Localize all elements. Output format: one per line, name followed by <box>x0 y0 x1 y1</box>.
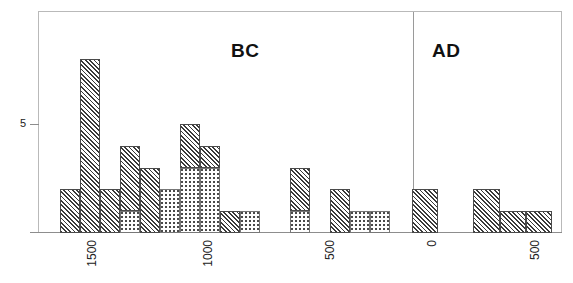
bar-segment-hatched <box>220 211 240 233</box>
histogram-bar <box>370 211 390 233</box>
histogram-bar <box>500 211 526 233</box>
bar-segment-dotted <box>290 211 310 233</box>
histogram-bar <box>100 189 120 233</box>
bar-segment-hatched <box>330 189 350 233</box>
bar-segment-dotted <box>180 168 200 233</box>
chart-root: 5 BC AD 150010005000500 <box>0 0 573 283</box>
histogram-bar <box>412 189 438 233</box>
bar-segment-dotted <box>350 211 370 233</box>
bar-segment-dotted <box>240 211 260 233</box>
histogram-bar <box>60 189 80 233</box>
bar-segment-hatched <box>473 189 500 233</box>
bar-segment-hatched <box>412 189 438 233</box>
histogram-bar <box>220 211 240 233</box>
histogram-bar <box>473 189 500 233</box>
histogram-bar <box>350 211 370 233</box>
bar-segment-hatched <box>526 211 552 233</box>
bar-segment-hatched <box>80 59 100 233</box>
bar-segment-hatched <box>500 211 526 233</box>
bar-segment-hatched <box>60 189 80 233</box>
histogram-bar <box>160 189 180 233</box>
bar-segment-dotted <box>370 211 390 233</box>
x-axis-tick-label: 1500 <box>86 240 99 267</box>
bar-segment-dotted <box>120 211 140 233</box>
histogram-bar <box>140 168 160 233</box>
bar-segment-hatched <box>100 189 120 233</box>
histogram-bar <box>290 168 310 233</box>
histogram-bar <box>240 211 260 233</box>
x-axis-tick-label: 500 <box>529 240 542 260</box>
x-axis-tick-label: 0 <box>426 240 439 247</box>
x-axis-tick-label: 1000 <box>202 240 215 267</box>
histogram-bar <box>330 189 350 233</box>
histogram-bar <box>526 211 552 233</box>
bar-segment-dotted <box>200 168 220 233</box>
histogram-bar <box>180 124 200 233</box>
histogram-bar <box>120 146 140 233</box>
bar-segment-hatched <box>180 124 200 168</box>
bar-segment-hatched <box>200 146 220 168</box>
bar-segment-hatched <box>120 146 140 211</box>
bar-segment-dotted <box>160 189 180 233</box>
histogram-bar <box>200 146 220 233</box>
bar-segment-hatched <box>290 168 310 212</box>
bar-segment-hatched <box>140 168 160 233</box>
histogram-bar <box>80 59 100 233</box>
x-axis-tick-label: 500 <box>324 240 337 260</box>
